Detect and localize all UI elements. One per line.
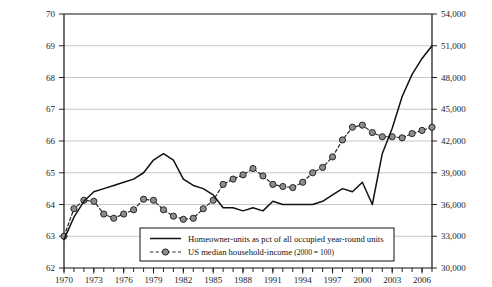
data-point-marker	[91, 198, 97, 204]
left-axis-ticks: 70 69 68 67 66 65 64 63 62	[46, 9, 64, 273]
left-tick-label: 63	[46, 231, 56, 241]
data-point-marker	[240, 172, 246, 178]
data-point-marker	[329, 154, 335, 160]
legend-label-dashed: US median household-income (2000 = 100)	[188, 247, 334, 257]
right-tick-label: 48,000	[441, 73, 466, 83]
data-point-marker	[230, 176, 236, 182]
left-tick-label: 66	[46, 136, 56, 146]
data-point-marker	[111, 215, 117, 221]
x-tick-label: 1988	[234, 275, 253, 285]
data-point-marker	[170, 213, 176, 219]
data-point-marker	[280, 183, 286, 189]
data-point-marker	[349, 124, 355, 130]
right-tick-label: 39,000	[441, 168, 466, 178]
data-point-marker	[300, 179, 306, 185]
data-point-marker	[310, 170, 316, 176]
data-point-marker	[260, 173, 266, 179]
right-tick-label: 30,000	[441, 263, 466, 273]
left-tick-label: 62	[46, 263, 55, 273]
data-point-marker	[419, 127, 425, 133]
data-point-marker	[339, 137, 345, 143]
x-tick-label: 1985	[204, 275, 223, 285]
data-point-marker	[270, 181, 276, 187]
data-point-marker	[121, 211, 127, 217]
data-point-marker	[369, 129, 375, 135]
data-point-marker	[180, 216, 186, 222]
data-point-marker	[101, 211, 107, 217]
data-point-marker	[409, 130, 415, 136]
data-point-marker	[359, 122, 365, 128]
data-point-marker	[190, 215, 196, 221]
right-tick-label: 51,000	[441, 41, 466, 51]
data-point-marker	[399, 135, 405, 141]
x-tick-label: 2006	[413, 275, 432, 285]
data-point-marker	[140, 196, 146, 202]
data-point-marker	[131, 207, 137, 213]
left-tick-label: 65	[46, 168, 56, 178]
left-tick-label: 68	[46, 73, 56, 83]
x-tick-label: 2000	[353, 275, 372, 285]
data-point-marker	[71, 206, 77, 212]
right-tick-label: 45,000	[441, 104, 466, 114]
right-tick-label: 54,000	[441, 9, 466, 19]
data-point-marker	[250, 165, 256, 171]
chart-container: 70 69 68 67 66 65 64 63 62 54,000 51,000	[0, 0, 492, 287]
x-tick-label: 2003	[383, 275, 402, 285]
left-tick-label: 70	[46, 9, 56, 19]
data-point-marker	[220, 181, 226, 187]
x-tick-label: 1997	[324, 275, 343, 285]
right-tick-label: 42,000	[441, 136, 466, 146]
x-tick-label: 1970	[55, 275, 74, 285]
right-tick-label: 36,000	[441, 200, 466, 210]
right-axis-ticks: 54,000 51,000 48,000 45,000 42,000 39,00…	[432, 9, 466, 273]
x-tick-label: 1979	[145, 275, 164, 285]
line-chart: 70 69 68 67 66 65 64 63 62 54,000 51,000	[0, 0, 492, 287]
bottom-axis-labels: 1970197319761979198219851988199119941997…	[55, 268, 432, 285]
left-tick-label: 69	[46, 41, 56, 51]
left-tick-label: 64	[46, 200, 56, 210]
data-point-marker	[200, 206, 206, 212]
x-tick-label: 1994	[294, 275, 313, 285]
data-point-marker	[379, 134, 385, 140]
x-tick-label: 1991	[264, 275, 282, 285]
x-tick-label: 1982	[174, 275, 192, 285]
legend: Homeowner-units as pct of all occupied y…	[140, 228, 394, 261]
data-point-marker	[150, 197, 156, 203]
x-tick-label: 1976	[115, 275, 134, 285]
data-point-marker	[160, 207, 166, 213]
x-tick-label: 1973	[85, 275, 104, 285]
data-point-marker	[319, 164, 325, 170]
data-point-marker	[290, 184, 296, 190]
left-tick-label: 67	[46, 104, 56, 114]
data-point-marker	[429, 124, 435, 130]
legend-label-solid: Homeowner-units as pct of all occupied y…	[188, 234, 384, 244]
right-tick-label: 33,000	[441, 231, 466, 241]
